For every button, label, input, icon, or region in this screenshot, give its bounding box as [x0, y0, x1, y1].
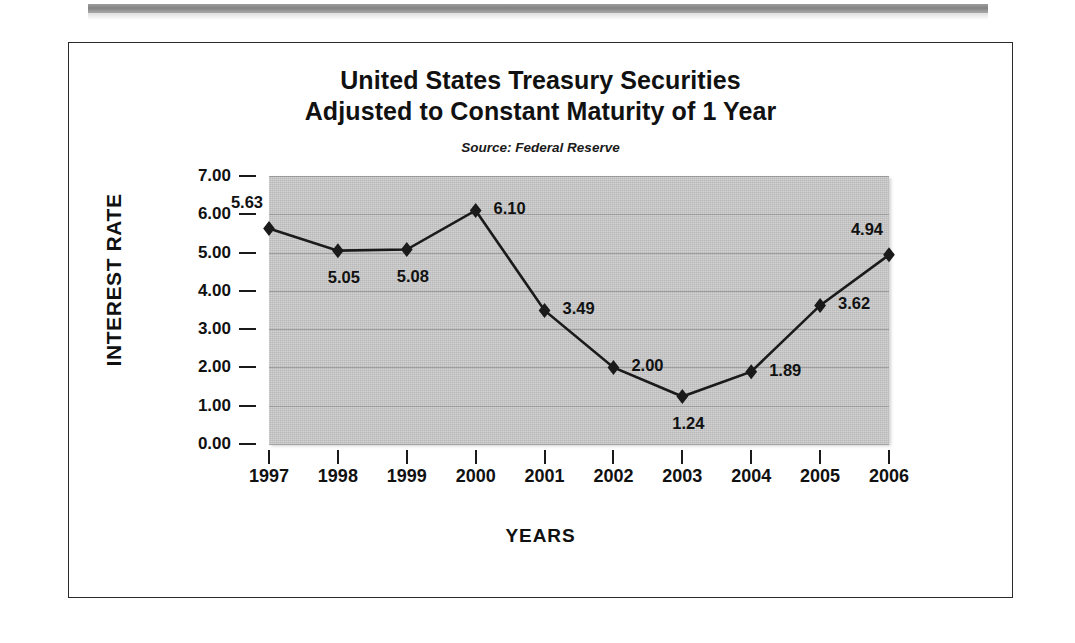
y-axis-tick-mark — [239, 252, 256, 254]
chart-figure-frame: United States Treasury Securities Adjust… — [68, 42, 1013, 598]
x-axis-tick-label: 2000 — [456, 466, 496, 487]
x-axis-tick-label: 1997 — [249, 466, 289, 487]
scan-artifact-bar — [88, 4, 988, 13]
data-point-marker — [883, 247, 895, 262]
y-axis-tick-label: 3.00 — [169, 319, 231, 339]
x-axis-tick-mark — [612, 450, 614, 464]
data-point-label: 5.08 — [397, 266, 429, 285]
data-point-marker — [332, 243, 344, 258]
scan-artifact-fade — [88, 13, 988, 20]
x-axis-tick-mark — [681, 450, 683, 464]
data-point-marker — [401, 242, 413, 257]
y-axis-tick-label: 7.00 — [169, 166, 231, 186]
x-axis-tick-label: 2002 — [593, 466, 633, 487]
y-axis-tick-label: 1.00 — [169, 396, 231, 416]
data-point-label: 5.63 — [231, 193, 263, 212]
plot-area: 5.635.055.086.103.492.001.241.893.624.94 — [269, 176, 889, 444]
x-axis-tick-label: 2004 — [731, 466, 771, 487]
data-point-label: 6.10 — [494, 199, 526, 218]
y-axis-tick-label: 5.00 — [169, 243, 231, 263]
x-axis-tick-label: 2005 — [800, 466, 840, 487]
x-axis-title: YEARS — [69, 525, 1012, 547]
x-axis-tick-label: 1999 — [387, 466, 427, 487]
data-point-label: 4.94 — [851, 219, 883, 238]
y-axis-tick-label: 6.00 — [169, 204, 231, 224]
data-point-label: 1.89 — [769, 360, 801, 379]
y-axis-tick-mark — [239, 443, 256, 445]
y-axis-tick-label: 4.00 — [169, 281, 231, 301]
data-point-label: 1.24 — [672, 413, 704, 432]
y-axis-tick-mark — [239, 175, 256, 177]
data-point-label: 3.49 — [562, 299, 594, 318]
data-point-marker — [263, 221, 275, 236]
y-axis-tick-label: 2.00 — [169, 357, 231, 377]
data-point-marker — [676, 389, 688, 404]
x-axis-tick-mark — [406, 450, 408, 464]
x-axis-tick-label: 2003 — [662, 466, 702, 487]
x-axis-tick-mark — [337, 450, 339, 464]
y-axis-tick-mark — [239, 328, 256, 330]
x-axis-tick-mark — [819, 450, 821, 464]
chart-title-line-one: United States Treasury Securities — [69, 65, 1012, 96]
x-axis-tick-mark — [268, 450, 270, 464]
chart-title: United States Treasury Securities Adjust… — [69, 65, 1012, 127]
y-axis-tick-mark — [239, 405, 256, 407]
data-point-label: 3.62 — [838, 294, 870, 313]
x-axis-tick-label: 1998 — [318, 466, 358, 487]
x-axis-tick-mark — [544, 450, 546, 464]
chart-source-note: Source: Federal Reserve — [69, 140, 1012, 155]
y-axis-tick-mark — [239, 290, 256, 292]
data-point-label: 2.00 — [631, 356, 663, 375]
x-axis-tick-mark — [475, 450, 477, 464]
x-axis-tick-mark — [750, 450, 752, 464]
data-point-marker — [608, 360, 620, 375]
gridline — [269, 444, 889, 445]
x-axis-tick-label: 2001 — [525, 466, 565, 487]
x-axis-tick-label: 2006 — [869, 466, 909, 487]
y-axis-tick-label: 0.00 — [169, 434, 231, 454]
y-axis-tick-mark — [239, 366, 256, 368]
chart-title-line-two: Adjusted to Constant Maturity of 1 Year — [69, 96, 1012, 127]
y-axis-title: INTEREST RATE — [102, 150, 126, 410]
y-axis-tick-mark — [239, 213, 256, 215]
data-point-label: 5.05 — [328, 267, 360, 286]
x-axis-tick-mark — [888, 450, 890, 464]
